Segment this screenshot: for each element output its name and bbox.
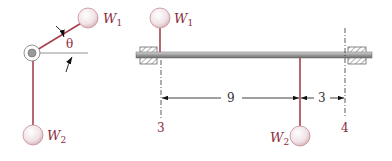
shaft-diagram: θ W1 W2 W1 W2 9 3 3 4 [0, 0, 392, 161]
w1-label: W1 [103, 11, 122, 28]
theta-label: θ [66, 37, 73, 51]
station-4-label: 4 [341, 121, 349, 135]
side-w2-label: W2 [270, 130, 289, 147]
station-3-label: 3 [157, 121, 165, 135]
side-weight-w2-ball [290, 126, 310, 146]
side-view: W1 W2 9 3 3 4 [136, 8, 372, 147]
w2-label: W2 [47, 128, 66, 145]
side-w1-label: W1 [174, 11, 193, 28]
dim-3-label: 3 [318, 91, 326, 105]
pivot-icon [28, 49, 36, 57]
end-view: θ W1 W2 [23, 8, 122, 145]
shaft [136, 52, 372, 58]
weight-w1-ball [78, 8, 98, 28]
angle-arrow-bottom-icon [66, 57, 72, 72]
dim-9-label: 9 [227, 91, 235, 105]
weight-w2-ball [23, 125, 43, 145]
side-weight-w1-ball [150, 8, 170, 28]
